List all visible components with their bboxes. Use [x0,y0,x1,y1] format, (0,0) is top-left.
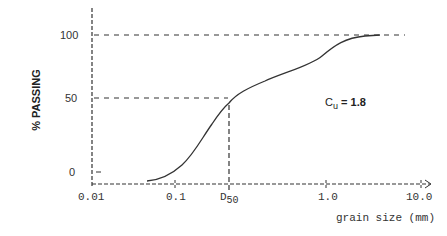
x-axis-label: grain size (mm) [336,212,435,224]
x-tick-d50: D50 [220,191,239,206]
x-tick-1-0: 1.0 [318,191,338,203]
y-tick-100: 100 [60,29,78,41]
x-tick-0-1: 0.1 [166,191,186,203]
x-tick-0-01: 0.01 [78,191,104,203]
x-tick-10-0: 10.0 [406,191,432,203]
y-tick-0: 0 [69,166,75,178]
cu-annotation: Cu = 1.8 [325,96,366,111]
y-tick-50: 50 [65,92,77,104]
y-axis-label: % PASSING [30,69,42,131]
